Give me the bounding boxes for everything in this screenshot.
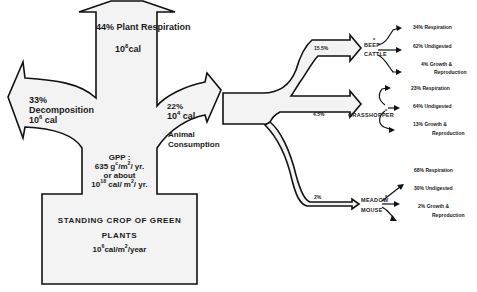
fate-percent: 2% xyxy=(418,203,425,209)
beef-fate-arrows xyxy=(378,28,399,72)
fate-percent: 30% xyxy=(414,185,424,191)
mouse-fate-respiration: 68% Respiration xyxy=(414,168,453,173)
mouse-marker: * xyxy=(385,195,387,201)
grasshopper-share: 4.5% xyxy=(313,112,324,117)
beef-marker: * xyxy=(373,38,375,44)
energy-base: 10 xyxy=(115,44,125,54)
gpp-cal: 1018 cal/ m2/ yr. xyxy=(82,181,157,189)
energy-unit: cal xyxy=(128,44,141,54)
grasshopper-fate-respiration: 23% Respiration xyxy=(411,86,450,91)
fate-label: Undigested xyxy=(424,43,451,49)
fate-label: Growth & xyxy=(427,203,450,209)
grasshopper-marker: * xyxy=(385,109,387,115)
standing-crop-value: 106cal/m2/year xyxy=(42,246,197,254)
beef-fate-arrowheads xyxy=(396,25,402,75)
energy-flow-diagram: 44% Plant Respiration 108cal 33% Decompo… xyxy=(0,0,477,292)
beef-fate-growth: 4% Growth & xyxy=(421,62,452,67)
beef-fate-undigested: 62% Undigested xyxy=(413,44,452,49)
fate-percent: 64% xyxy=(413,103,423,109)
gpp-num: 635 g xyxy=(95,162,115,171)
fate-label: Respiration xyxy=(422,85,450,91)
beef-fate-growth-2: Reproduction xyxy=(434,70,467,75)
energy-base: 10 xyxy=(29,115,39,125)
consumption-name-2: Consumption xyxy=(168,141,220,149)
fate-percent: 4% xyxy=(421,61,428,67)
mouse-share: 2% xyxy=(314,195,321,200)
output-label-respiration: 44% Plant Respiration xyxy=(96,23,160,32)
crop-unit: cal/m xyxy=(104,245,124,254)
grasshopper-fate-growth-2: Reproduction xyxy=(432,131,465,136)
beef-name-2: CATTLE xyxy=(364,52,387,58)
mouse-stream xyxy=(265,122,359,209)
beef-share: 15.5% xyxy=(314,46,328,51)
fate-percent: 62% xyxy=(413,43,423,49)
fate-percent: 23% xyxy=(411,85,421,91)
standing-crop-title: STANDING CROP OF GREEN xyxy=(42,217,197,225)
mouse-name-2: MOUSE xyxy=(361,208,383,214)
fate-percent: 68% xyxy=(414,167,424,173)
energy-unit: cal xyxy=(42,115,57,125)
gpp-mid: /m xyxy=(118,162,127,171)
respiration-energy: 108cal xyxy=(96,45,160,54)
respiration-name: Plant Respiration xyxy=(117,22,191,32)
fate-percent: 34% xyxy=(413,24,423,30)
beef-name-1: BEEF xyxy=(364,43,380,49)
gpp-cal-tail: / yr. xyxy=(134,180,148,189)
grasshopper-fate-growth: 13% Growth & xyxy=(413,122,447,127)
gpp-tail: / yr. xyxy=(130,162,144,171)
fate-label: Undigested xyxy=(424,103,451,109)
energy-unit: cal xyxy=(180,111,195,121)
fate-label: Undigested xyxy=(425,185,452,191)
standing-crop-title-2: PLANTS xyxy=(42,232,197,240)
fate-label: Growth & xyxy=(424,121,447,127)
gpp-cal-unit: cal/ m xyxy=(106,180,131,189)
decomposition-energy: 106 cal xyxy=(29,116,57,125)
gpp-cal-base: 10 xyxy=(91,180,100,189)
grasshopper-fate-undigested: 64% Undigested xyxy=(413,104,452,109)
consumption-name-1: Animal xyxy=(168,131,195,139)
consumption-stream xyxy=(223,35,361,125)
mouse-fate-growth-2: Reproduction xyxy=(432,213,465,218)
fate-label: Respiration xyxy=(425,167,453,173)
beef-fate-respiration: 34% Respiration xyxy=(413,25,452,30)
respiration-percent: 44% xyxy=(96,22,114,32)
mouse-fate-undigested: 30% Undigested xyxy=(414,186,453,191)
mouse-fate-growth: 2% Growth & xyxy=(418,204,449,209)
fate-label: Growth & xyxy=(430,61,453,67)
fate-label: Respiration xyxy=(424,24,452,30)
consumption-energy: 104 cal xyxy=(167,112,195,121)
crop-unit-tail: /year xyxy=(128,245,147,254)
energy-base: 10 xyxy=(167,111,177,121)
fate-percent: 13% xyxy=(413,121,423,127)
